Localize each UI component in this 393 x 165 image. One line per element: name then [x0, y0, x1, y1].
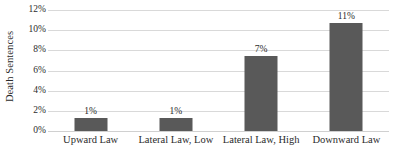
- bar-value-label: 1%: [84, 106, 97, 116]
- y-axis-title: Death Sentences: [0, 0, 20, 133]
- bar-group[interactable]: 1%: [48, 10, 133, 131]
- y-axis-title-text: Death Sentences: [5, 31, 16, 102]
- bar[interactable]: [330, 23, 363, 131]
- y-tick-label: 6%: [20, 66, 46, 76]
- y-tick-label: 4%: [20, 86, 46, 96]
- x-tick-label: Lateral Law, High: [223, 133, 300, 146]
- bar-value-label: 1%: [170, 106, 183, 116]
- bar-chart: Death Sentences 0%2%4%6%8%10%12% 1%1%7%1…: [0, 0, 393, 165]
- x-tick-label: Lateral Law, Low: [138, 133, 213, 146]
- bar-value-label: 7%: [255, 44, 268, 54]
- bars: 1%1%7%11%: [48, 10, 389, 131]
- x-tick-label: Upward Law: [63, 133, 118, 146]
- y-tick-label: 0%: [20, 126, 46, 136]
- y-tick-label: 10%: [20, 25, 46, 35]
- y-tick-label: 12%: [20, 5, 46, 15]
- y-tick-label: 2%: [20, 106, 46, 116]
- bar[interactable]: [74, 118, 107, 131]
- gridline: [48, 131, 389, 132]
- plot-area: 1%1%7%11%: [48, 10, 389, 131]
- bar-value-label: 11%: [338, 11, 355, 21]
- x-axis-tick-labels: Upward LawLateral Law, LowLateral Law, H…: [48, 133, 389, 153]
- bar[interactable]: [245, 56, 278, 131]
- bar-group[interactable]: 1%: [133, 10, 218, 131]
- bar[interactable]: [159, 118, 192, 131]
- x-tick-label: Downward Law: [312, 133, 380, 146]
- bar-group[interactable]: 11%: [304, 10, 389, 131]
- bar-group[interactable]: 7%: [219, 10, 304, 131]
- y-tick-label: 8%: [20, 46, 46, 56]
- y-axis-tick-labels: 0%2%4%6%8%10%12%: [20, 0, 46, 133]
